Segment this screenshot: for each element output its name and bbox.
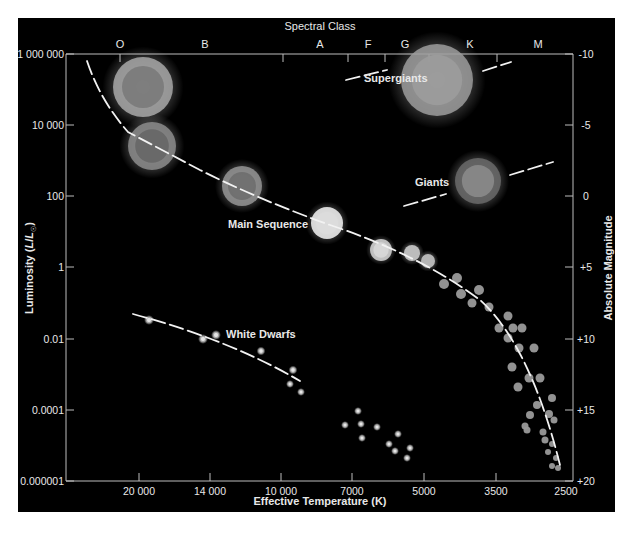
star-markers [103, 31, 562, 471]
annotation-main-sequence: Main Sequence [228, 218, 308, 230]
luminosity-tick-label: 1 000 000 [17, 48, 64, 60]
magnitude-tick-label: +20 [577, 475, 595, 487]
spectral-class-label: B [201, 38, 208, 50]
y2-axis-title: Absolute Magnitude [602, 215, 614, 320]
annotation-supergiants: Supergiants [364, 72, 428, 84]
temperature-tick-label: 5000 [412, 485, 436, 497]
luminosity-tick-label: 0.01 [44, 333, 65, 345]
spectral-class-label: F [365, 38, 372, 50]
spectral-class-label: M [533, 38, 542, 50]
luminosity-tick-label: 1 [58, 261, 64, 273]
temperature-tick-label: 3500 [484, 485, 508, 497]
annotation-giants: Giants [415, 176, 449, 188]
curve-supergiants-right [483, 62, 511, 71]
spectral-class-label: A [316, 38, 324, 50]
temperature-tick-label: 20 000 [123, 485, 155, 497]
magnitude-tick-label: +15 [577, 404, 595, 416]
curve-giants-right [510, 162, 553, 175]
magnitude-tick-label: -10 [578, 48, 593, 60]
magnitude-tick-label: +10 [577, 333, 595, 345]
luminosity-tick-label: 0.000001 [20, 475, 64, 487]
magnitude-tick-label: -5 [581, 119, 590, 131]
temperature-tick-label: 2500 [554, 485, 578, 497]
temperature-tick-marks: 20 00014 00010 0007000500035002500 [123, 473, 578, 497]
top-axis-title: Spectral Class [285, 20, 356, 32]
spectral-class-label: O [116, 38, 125, 50]
temperature-tick-label: 14 000 [194, 485, 226, 497]
luminosity-tick-label: 100 [46, 190, 64, 202]
y-axis-title: Luminosity (L/L☉) [23, 222, 37, 314]
curve-white-dwarfs [133, 314, 300, 381]
x-axis-title: Effective Temperature (K) [253, 495, 386, 507]
magnitude-tick-label: +5 [580, 261, 592, 273]
magnitude-tick-marks: -10-50+5+10+15+20 [565, 48, 595, 487]
luminosity-tick-label: 10 000 [32, 119, 64, 131]
magnitude-tick-label: 0 [583, 190, 589, 202]
hr-diagram: OBAFGKM 20 00014 00010 00070005000350025… [0, 0, 634, 534]
curve-giants-left [404, 194, 446, 206]
annotation-white-dwarfs: White Dwarfs [226, 328, 296, 340]
luminosity-tick-label: 0.0001 [32, 404, 64, 416]
